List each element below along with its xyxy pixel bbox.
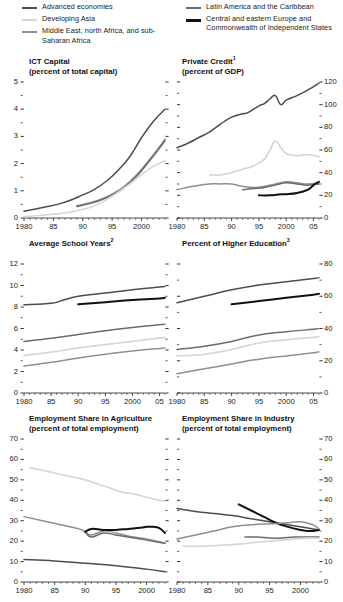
y-tick-label: 0: [324, 213, 343, 222]
y-tick-label: 80: [324, 122, 343, 131]
y-tick-label: 0: [324, 388, 343, 397]
y-tick-label: 50: [324, 475, 343, 484]
panel-title: Percent of Higher Education3: [182, 239, 290, 250]
series-line: [239, 504, 319, 531]
x-tick-label: 90: [71, 586, 99, 595]
y-tick-label: 40: [0, 495, 18, 504]
y-tick-label: 30: [0, 516, 18, 525]
x-tick-label: 90: [64, 397, 92, 406]
y-tick-label: 5: [0, 77, 18, 86]
y-tick-label: 40: [324, 168, 343, 177]
x-tick-label: 1980: [10, 222, 38, 231]
x-tick-label: 05: [300, 222, 328, 231]
y-tick-label: 0: [0, 213, 18, 222]
legend-item-label: Latin America and the Caribbean: [206, 2, 314, 11]
x-tick-label: 95: [245, 222, 273, 231]
series-line: [24, 348, 165, 366]
series-line: [78, 298, 165, 304]
panel-subtitle: (percent of GDP): [182, 67, 244, 78]
series-line: [177, 83, 319, 148]
x-tick-label: 90: [218, 222, 246, 231]
x-tick-label: 95: [98, 222, 126, 231]
y-tick-label: 4: [0, 345, 18, 354]
legend-left-item: Developing Asia: [22, 14, 182, 23]
x-tick-label: 85: [190, 222, 218, 231]
series-line: [30, 468, 165, 502]
series-line: [24, 324, 165, 341]
panel-grid: 01234519808590952000ICT Capital(percent …: [0, 56, 343, 602]
legend-line-swatch-icon: [186, 19, 201, 22]
legend-left-item: Middle East, north Africa, and sub-Sahar…: [22, 26, 182, 44]
x-tick-label: 85: [194, 586, 222, 595]
y-tick-label: 100: [324, 100, 343, 109]
series-line: [177, 508, 319, 529]
x-tick-label: 1980: [163, 222, 191, 231]
x-tick-label: 2000: [118, 397, 146, 406]
x-tick-label: 85: [39, 222, 67, 231]
y-tick-label: 20: [324, 356, 343, 365]
legend-line-swatch-icon: [186, 7, 201, 9]
y-tick-label: 2: [0, 159, 18, 168]
y-tick-label: 40: [324, 324, 343, 333]
series-line: [24, 109, 165, 211]
y-tick-label: 0: [0, 577, 18, 586]
x-tick-label: 1980: [163, 397, 191, 406]
panel-title: Employment Share in Industry: [182, 414, 295, 425]
x-tick-label: 85: [190, 397, 218, 406]
plot-canvas: [0, 413, 171, 602]
y-tick-label: 40: [324, 495, 343, 504]
legend-item-label: Advanced economies: [42, 2, 113, 11]
x-tick-label: 90: [225, 586, 253, 595]
panel-subtitle: (percent of total capital): [29, 67, 117, 78]
panel-title: Average School Years2: [29, 239, 113, 250]
y-tick-label: 60: [324, 291, 343, 300]
plot-canvas: [0, 56, 171, 238]
y-tick-label: 3: [0, 131, 18, 140]
x-tick-label: 2000: [272, 222, 300, 231]
panel-title-footnote-marker: 1: [233, 55, 236, 61]
y-tick-label: 80: [324, 259, 343, 268]
x-tick-label: 1980: [10, 397, 38, 406]
figure-sheet: Advanced economiesDeveloping AsiaMiddle …: [0, 0, 343, 602]
y-tick-label: 60: [324, 145, 343, 154]
y-tick-label: 10: [0, 281, 18, 290]
x-tick-label: 1980: [10, 586, 38, 595]
panel-title: ICT Capital: [29, 57, 70, 68]
y-tick-label: 10: [0, 557, 18, 566]
panel-ict-capital: 01234519808590952000ICT Capital(percent …: [0, 56, 171, 238]
series-line: [85, 527, 165, 533]
y-tick-label: 60: [0, 454, 18, 463]
plot-canvas: [171, 413, 343, 602]
x-tick-label: 95: [102, 586, 130, 595]
panel-title-footnote-marker: 2: [110, 237, 113, 243]
x-tick-label: 95: [256, 586, 284, 595]
figure-legend: Advanced economiesDeveloping AsiaMiddle …: [0, 0, 343, 56]
legend-line-swatch-icon: [22, 19, 37, 21]
series-line: [24, 560, 165, 572]
x-tick-label: 05: [300, 397, 328, 406]
legend-right-item: Latin America and the Caribbean: [186, 2, 341, 11]
y-tick-label: 2: [0, 367, 18, 376]
series-line: [177, 278, 319, 303]
plot-canvas: [171, 238, 343, 413]
y-tick-label: 1: [0, 186, 18, 195]
plot-canvas: [171, 56, 343, 238]
x-tick-label: 2000: [133, 586, 161, 595]
x-tick-label: 95: [91, 397, 119, 406]
panel-average-school-years: 0246810121980859095200005Average School …: [0, 238, 171, 413]
y-tick-label: 20: [324, 190, 343, 199]
x-tick-label: 85: [37, 397, 65, 406]
y-tick-label: 70: [324, 434, 343, 443]
series-line: [183, 538, 319, 546]
y-tick-label: 20: [324, 536, 343, 545]
panel-employment-agriculture: 01020304050607019808590952000Employment …: [0, 413, 171, 602]
panel-percent-higher-education: 0204060801980859095200005Percent of High…: [171, 238, 343, 413]
x-tick-label: 2000: [286, 586, 314, 595]
y-tick-label: 12: [0, 259, 18, 268]
x-tick-label: 2000: [272, 397, 300, 406]
legend-item-label: Middle East, north Africa, and sub-Sahar…: [42, 26, 182, 44]
y-tick-label: 120: [324, 77, 343, 86]
y-tick-label: 60: [324, 454, 343, 463]
panel-employment-industry: 01020304050607019808590952000Employment …: [171, 413, 343, 602]
x-tick-label: 90: [218, 397, 246, 406]
